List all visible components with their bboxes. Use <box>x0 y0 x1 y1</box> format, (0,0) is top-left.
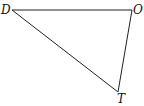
edge-ot <box>118 10 132 92</box>
triangle-shape <box>0 0 144 106</box>
edge-td <box>12 10 118 92</box>
vertex-label-d: D <box>1 4 11 16</box>
vertex-label-o: O <box>133 4 143 16</box>
vertex-label-t: T <box>117 93 125 105</box>
triangle-diagram: D O T <box>0 0 144 106</box>
